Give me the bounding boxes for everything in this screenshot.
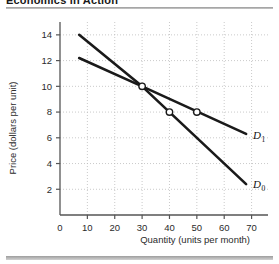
x-axis-label: Quantity (units per month): [140, 234, 250, 245]
figure-container: Economics in Action 24681012140102030405…: [0, 0, 279, 264]
x-tick-label: 40: [164, 222, 175, 233]
x-tick-label: 30: [137, 222, 148, 233]
x-tick-label: 60: [219, 222, 230, 233]
curves-group: [79, 35, 246, 184]
demand-curve-d0: [79, 35, 246, 184]
y-tick-label: 2: [47, 184, 52, 195]
y-tick-label: 12: [41, 55, 52, 66]
x-tick-label: 10: [82, 222, 93, 233]
x-tick-label: 50: [192, 222, 203, 233]
y-tick-label: 14: [41, 29, 52, 40]
demand-curve-chart: 2468101214010203040506070 D0D1 Quantity …: [0, 10, 279, 254]
curve-label-d1: D1: [252, 129, 265, 144]
axes-group: [60, 22, 268, 215]
figure-title: Economics in Action: [6, 0, 118, 6]
curve-label-d0: D0: [252, 178, 265, 193]
curve-labels-group: D0D1: [252, 129, 265, 193]
top-divider-rule: [6, 7, 273, 9]
x-tick-label: 70: [246, 222, 257, 233]
y-tick-label: 10: [41, 81, 52, 92]
y-tick-label: 8: [47, 106, 52, 117]
x-tick-label: 20: [109, 222, 120, 233]
y-tick-label: 6: [47, 132, 52, 143]
gridlines-group: [60, 22, 268, 215]
x-tick-label: 0: [57, 222, 62, 233]
data-point-marker: [139, 83, 145, 89]
y-tick-label: 4: [47, 158, 52, 169]
demand-curve-d1: [79, 58, 246, 134]
y-axis-label: Price (dollars per unit): [7, 82, 18, 175]
bottom-divider-rule: [6, 256, 273, 260]
tick-marks-group: [56, 35, 252, 219]
data-point-marker: [194, 109, 200, 115]
data-point-marker: [166, 109, 172, 115]
